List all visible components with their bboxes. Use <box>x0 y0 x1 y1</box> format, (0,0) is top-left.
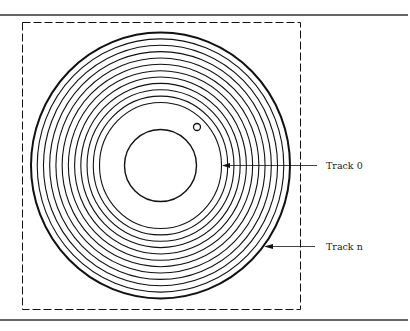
track-n-pointer <box>264 244 315 249</box>
arrowhead-icon <box>222 163 230 168</box>
track-0-pointer <box>222 163 317 168</box>
track-ring <box>87 90 234 241</box>
track-n-label: Track n <box>326 241 363 252</box>
track-ring <box>93 96 227 235</box>
disk-hub <box>125 130 197 202</box>
track-0-label: Track 0 <box>326 160 363 171</box>
track-ring <box>75 77 247 254</box>
track-ring <box>81 83 240 247</box>
track-0-ring <box>100 103 222 229</box>
index-hole <box>194 124 201 131</box>
disk-diagram: Track 0 Track n <box>0 0 410 331</box>
